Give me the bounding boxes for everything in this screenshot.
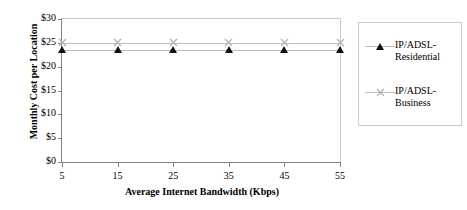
data-point-marker-cross	[280, 38, 289, 47]
x-axis-title: Average Internet Bandwidth (Kbps)	[61, 186, 343, 197]
data-point-marker-cross	[169, 38, 178, 47]
y-axis-tick-label: $20	[24, 61, 56, 71]
data-point-marker-triangle	[336, 46, 344, 53]
y-axis-tick-mark	[58, 114, 62, 115]
legend-swatch	[365, 40, 395, 52]
legend-label: IP/ADSL-Residential	[395, 39, 461, 63]
y-axis-tick-label: $10	[24, 108, 56, 118]
data-point-marker-triangle	[114, 46, 122, 53]
x-axis-tick-mark	[229, 162, 230, 167]
data-point-marker-cross	[113, 38, 122, 47]
data-point-marker-cross	[224, 38, 233, 47]
series-line	[62, 50, 340, 51]
line-chart: Monthly Cost per Location $0$5$10$15$20$…	[0, 0, 467, 210]
data-point-marker-triangle	[225, 46, 233, 53]
y-axis-tick-label: $30	[24, 13, 56, 23]
series-line	[62, 43, 340, 44]
x-axis-tick-mark	[62, 162, 63, 167]
data-point-marker-triangle	[169, 46, 177, 53]
y-axis-tick-label: $0	[24, 156, 56, 166]
x-axis-tick-label: 15	[98, 170, 138, 181]
legend-label: IP/ADSL-Business	[395, 85, 461, 109]
data-point-marker-cross	[336, 38, 345, 47]
legend-entry: IP/ADSL-Business	[365, 85, 461, 109]
x-axis-tick-mark	[284, 162, 285, 167]
legend-entry: IP/ADSL-Residential	[365, 39, 461, 63]
x-axis-tick-label: 25	[153, 170, 193, 181]
plot-inner	[62, 19, 340, 162]
x-axis-tick-mark	[173, 162, 174, 167]
y-axis-tick-mark	[58, 67, 62, 68]
y-axis-tick-mark	[58, 19, 62, 20]
legend-swatch	[365, 86, 395, 98]
y-axis-tick-mark	[58, 91, 62, 92]
y-axis-tick-mark	[58, 138, 62, 139]
x-axis-tick-label: 45	[264, 170, 304, 181]
y-axis-tick-label: $25	[24, 37, 56, 47]
x-axis-tick-label: 35	[209, 170, 249, 181]
x-axis-tick-labels: 51525354555	[61, 170, 343, 184]
y-axis-tick-labels: $0$5$10$15$20$25$30	[24, 12, 56, 164]
x-axis-tick-mark	[340, 162, 341, 167]
legend: IP/ADSL-ResidentialIP/ADSL-Business	[358, 22, 462, 126]
data-point-marker-triangle	[58, 46, 66, 53]
data-point-marker-triangle	[376, 43, 384, 50]
data-point-marker-cross	[58, 38, 67, 47]
x-axis-tick-label: 55	[320, 170, 360, 181]
data-point-marker-cross	[376, 88, 385, 97]
x-axis-tick-mark	[118, 162, 119, 167]
y-axis-tick-label: $15	[24, 85, 56, 95]
plot-area	[61, 18, 341, 163]
data-point-marker-triangle	[280, 46, 288, 53]
y-axis-tick-label: $5	[24, 132, 56, 142]
x-axis-tick-label: 5	[42, 170, 82, 181]
